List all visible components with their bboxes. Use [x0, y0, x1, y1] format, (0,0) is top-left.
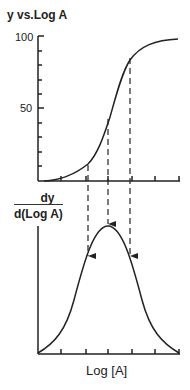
top-axes	[38, 36, 180, 181]
sigmoid-curve	[44, 39, 178, 181]
plots	[0, 0, 190, 390]
bell-curve	[38, 226, 179, 353]
